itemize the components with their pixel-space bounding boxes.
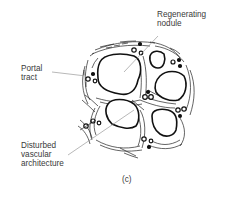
label-portal-tract: Portaltract [21, 64, 42, 82]
label-line: nodule [157, 19, 206, 28]
nodule-lower-right [152, 109, 177, 136]
label-regenerating-nodule: Regeneratingnodule [157, 10, 206, 28]
nodule-small-top [150, 51, 165, 68]
cirrhotic-liver-illustration [0, 0, 235, 199]
label-disturbed-vascular-architecture: Disturbedvasculararchitecture [21, 141, 64, 169]
leader-portal-tract [52, 72, 86, 76]
nodule-lower-left [106, 100, 139, 129]
panel-label: (c) [122, 175, 132, 184]
label-line: tract [21, 73, 42, 82]
nodule-right [155, 72, 186, 101]
label-line: Portal [21, 64, 42, 73]
label-line: Regenerating [157, 10, 206, 19]
label-line: architecture [21, 159, 64, 168]
label-line: vascular [21, 150, 64, 159]
label-line: Disturbed [21, 141, 64, 150]
nodule-large [98, 54, 141, 94]
